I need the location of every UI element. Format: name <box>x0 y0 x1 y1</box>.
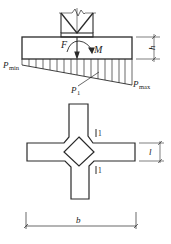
force-label: F <box>60 39 68 50</box>
width-dimension <box>24 212 138 229</box>
p1-label: P <box>70 85 77 95</box>
p-max-label: P <box>132 79 139 89</box>
column-plan-diamond <box>64 137 94 166</box>
section-mark-bottom-label: 1 <box>98 166 102 175</box>
force-arrow <box>75 37 79 58</box>
p1-subscript: 1 <box>77 89 80 96</box>
cross-footing-plan <box>27 104 135 199</box>
height-label: h <box>147 45 157 50</box>
arm-width-label: l <box>149 147 152 157</box>
pressure-diagram <box>22 59 132 86</box>
column-elevation <box>59 8 96 37</box>
section-mark-top-label: 1 <box>98 129 102 138</box>
foundation-diagram: F M h P min P max P 1 1 1 l b <box>0 0 171 244</box>
p-min-subscript: min <box>9 64 20 71</box>
moment-arrow <box>67 41 94 53</box>
width-label: b <box>76 215 81 225</box>
moment-label: M <box>93 44 103 55</box>
p-min-label: P <box>2 60 9 70</box>
p-max-subscript: max <box>139 83 151 90</box>
